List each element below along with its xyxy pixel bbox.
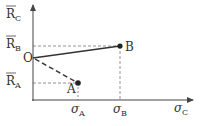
svg-text:A: A	[78, 109, 85, 118]
sigma-b-label: σ B	[113, 102, 127, 118]
point-b-label: B	[125, 40, 134, 54]
sigma-a-label: σ A	[71, 102, 85, 118]
risk-return-diagram: R C R B R A O B A σ A σ B σ C	[0, 0, 204, 126]
origin-label: O	[23, 51, 33, 65]
svg-text:C: C	[15, 14, 21, 23]
svg-text:B: B	[15, 44, 21, 53]
x-axis-label: σ C	[174, 101, 188, 117]
y-axis-label: R C	[6, 6, 21, 23]
ra-label: R A	[6, 73, 21, 90]
o-to-a-line	[35, 59, 78, 83]
svg-text:C: C	[182, 108, 188, 117]
rb-label: R B	[6, 36, 21, 53]
svg-text:A: A	[14, 81, 21, 90]
point-b	[117, 43, 122, 48]
svg-text:B: B	[121, 109, 127, 118]
point-a	[75, 80, 81, 86]
o-to-b-line	[33, 46, 120, 58]
point-a-label: A	[66, 82, 76, 96]
